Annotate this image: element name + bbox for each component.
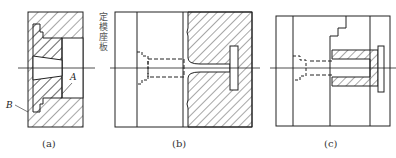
mold-section-c-drawing <box>270 0 396 158</box>
mold-section-b-drawing <box>110 0 260 158</box>
panel-b: (b) <box>110 0 260 158</box>
mold-section-a-drawing <box>0 0 100 158</box>
label-b-callout: B <box>6 100 13 110</box>
fixed-plate-label: 定模座板 <box>98 12 108 52</box>
caption-b: (b) <box>172 138 186 149</box>
panel-c: (c) <box>270 0 396 158</box>
label-a-callout: A <box>70 72 77 82</box>
caption-a: (a) <box>42 138 56 149</box>
panel-a: A B (a) <box>0 0 100 158</box>
caption-c: (c) <box>324 138 337 149</box>
